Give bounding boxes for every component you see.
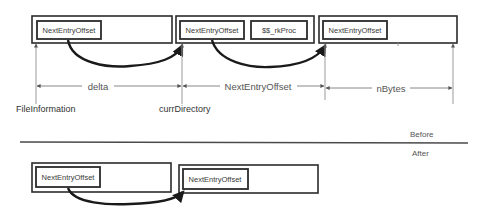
currdirectory-label: currDirectory bbox=[159, 104, 211, 114]
before-entry-3: NextEntryOffset bbox=[319, 16, 457, 43]
link-arrow-2-to-3 bbox=[212, 40, 325, 67]
entry-1-field-label: NextEntryOffset bbox=[43, 26, 97, 35]
fileinformation-label: FileInformation bbox=[16, 104, 76, 114]
after-entry-2: NextEntryOffset bbox=[179, 165, 318, 193]
next-entry-offset-dimension-label: NextEntryOffset bbox=[225, 81, 292, 92]
link-arrow-1-to-2 bbox=[68, 40, 182, 66]
entry-2-field-label: NextEntryOffset bbox=[186, 26, 240, 35]
entry-3-field-label: NextEntryOffset bbox=[329, 26, 383, 35]
before-label: Before bbox=[410, 130, 434, 139]
after-entry-2-field-label: NextEntryOffset bbox=[189, 175, 243, 184]
after-entry-1-field-label: NextEntryOffset bbox=[42, 173, 96, 182]
entry-2-extra-field-label: $$_rkProc bbox=[262, 26, 296, 35]
dimension-nbytes: nBytes bbox=[326, 83, 452, 94]
hidden-entry-diagram: NextEntryOffset NextEntryOffset $$_rkPro… bbox=[0, 0, 481, 213]
before-entry-2: NextEntryOffset $$_rkProc bbox=[176, 16, 314, 43]
dimension-delta: delta bbox=[37, 81, 181, 92]
before-after-separator bbox=[20, 142, 468, 143]
dimension-next-entry-offset: NextEntryOffset bbox=[183, 81, 324, 92]
nbytes-label: nBytes bbox=[376, 83, 405, 94]
before-entry-1: NextEntryOffset bbox=[32, 16, 172, 43]
after-section: After NextEntryOffset NextEntryOffset bbox=[32, 149, 429, 204]
before-section: NextEntryOffset NextEntryOffset $$_rkPro… bbox=[16, 16, 457, 139]
delta-label: delta bbox=[88, 81, 109, 92]
after-label: After bbox=[412, 149, 429, 158]
after-entry-1: NextEntryOffset bbox=[32, 163, 171, 192]
